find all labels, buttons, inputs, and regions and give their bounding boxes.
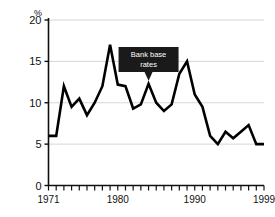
- x-tick-labels: 1971198019901999: [37, 194, 275, 205]
- y-axis: 05101520 %: [29, 8, 48, 192]
- y-tick-label-10: 10: [29, 97, 41, 109]
- callout-label-line1: Bank base: [131, 50, 166, 59]
- y-tick-labels: 05101520: [29, 14, 41, 192]
- y-tick-label-15: 15: [29, 55, 41, 67]
- x-tick-label-1980: 1980: [107, 194, 130, 205]
- bank-base-rates-line-chart: 05101520 % 1971198019901999 Bank base ra…: [0, 0, 275, 217]
- gridlines: [49, 20, 265, 144]
- chart-container: 05101520 % 1971198019901999 Bank base ra…: [0, 0, 275, 217]
- x-tick-label-1971: 1971: [37, 194, 60, 205]
- x-tick-label-1990: 1990: [184, 194, 207, 205]
- callout-pointer-icon: [145, 72, 153, 81]
- annotation-bank-base-rates: Bank base rates: [119, 47, 179, 81]
- y-axis-unit-label: %: [34, 8, 42, 18]
- callout-label-line2: rates: [140, 60, 157, 69]
- y-tick-label-5: 5: [35, 138, 41, 150]
- x-axis: 1971198019901999: [37, 186, 275, 205]
- y-tick-label-0: 0: [35, 180, 41, 192]
- x-tick-label-1999: 1999: [253, 194, 275, 205]
